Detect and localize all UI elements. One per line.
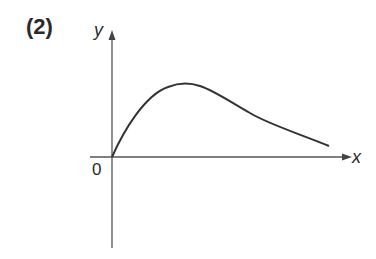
- y-axis: [109, 30, 116, 248]
- graph: [0, 0, 376, 259]
- x-axis-arrow-icon: [342, 154, 352, 161]
- x-axis: [90, 154, 352, 161]
- y-axis-arrow-icon: [109, 30, 116, 40]
- function-curve: [112, 83, 329, 157]
